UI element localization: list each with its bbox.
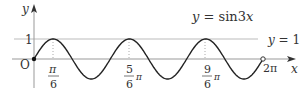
svg-text:6: 6 [126,78,133,91]
x-tick-pi6: π 6 [48,63,59,91]
svg-text:6: 6 [204,78,211,91]
svg-text:9: 9 [204,63,211,76]
svg-text:5: 5 [126,63,133,76]
sine-graph: y = sin3x y x O 1 y = 1 π 6 5 6 π 9 6 π … [0,0,308,97]
svg-text:6: 6 [50,78,57,91]
origin-point [32,57,36,61]
chart-title: y = sin3x [191,9,254,24]
y-tick-label-1: 1 [25,33,33,47]
x-tick-5pi6: 5 6 π [124,63,143,91]
reference-line-label: y = 1 [267,33,300,47]
end-point-2pi [261,57,265,61]
y-axis-label: y [21,2,29,16]
svg-text:π: π [48,63,57,76]
x-axis-label: x [291,62,298,76]
svg-text:π: π [213,72,221,82]
x-end-label-2pi: 2π [263,62,277,75]
origin-label: O [20,58,30,72]
x-tick-9pi6: 9 6 π [202,63,221,91]
svg-text:π: π [135,72,143,82]
